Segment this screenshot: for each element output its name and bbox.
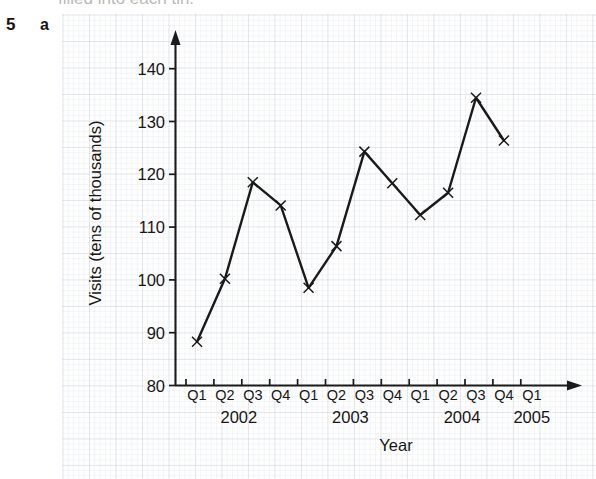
x-tick-label: Q1 [299, 387, 318, 403]
y-tick-label: 90 [147, 324, 165, 342]
x-tick-label: Q2 [438, 387, 457, 403]
x-axis-year-label: 2003 [332, 408, 369, 426]
x-tick-label: Q4 [383, 387, 402, 403]
x-tick-label: Q2 [215, 387, 234, 403]
y-axis-title: Visits (tens of thousands) [86, 121, 104, 306]
y-tick-label: 110 [139, 218, 165, 236]
x-tick-label: Q3 [243, 387, 262, 403]
x-tick-label: Q2 [327, 387, 346, 403]
x-axis-year-label: 2005 [513, 408, 550, 426]
x-axis-year-label: 2004 [444, 408, 481, 426]
x-axis-title: Year [379, 436, 413, 454]
y-tick-label: 120 [137, 165, 165, 183]
x-axis-quarter-labels: Q1Q2Q3Q4Q1Q2Q3Q4Q1Q2Q3Q4Q1 [187, 387, 541, 403]
x-axis-year-labels: 2002200320042005 [220, 408, 550, 426]
x-tick-label: Q1 [522, 387, 541, 403]
y-axis-ticks: 8090100110120130140 [137, 60, 176, 395]
y-tick-label: 80 [147, 377, 165, 395]
x-tick-label: Q1 [187, 387, 206, 403]
x-tick-label: Q3 [355, 387, 374, 403]
x-tick-label: Q4 [271, 387, 290, 403]
x-axis-year-label: 2002 [220, 408, 257, 426]
y-tick-label: 130 [137, 113, 165, 131]
x-tick-label: Q3 [466, 387, 485, 403]
y-tick-label: 100 [137, 271, 165, 289]
data-point-markers [192, 93, 509, 347]
worksheet-page: filled into each tin. 5 a 80901001101201… [0, 0, 596, 479]
data-series-line [197, 98, 504, 342]
y-tick-label: 140 [137, 60, 165, 78]
x-tick-label: Q4 [494, 387, 513, 403]
line-chart: 8090100110120130140 Q1Q2Q3Q4Q1Q2Q3Q4Q1Q2… [0, 0, 596, 479]
x-tick-label: Q1 [411, 387, 430, 403]
